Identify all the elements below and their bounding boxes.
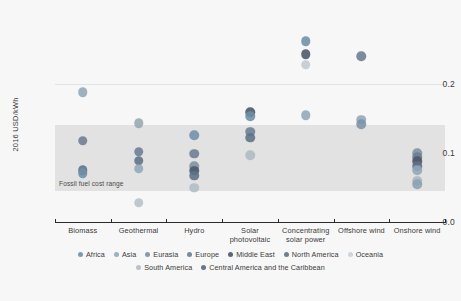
data-point	[301, 60, 311, 70]
y-axis-title: 2016 USD/kWh	[11, 80, 20, 170]
data-point	[245, 150, 255, 160]
legend-item[interactable]: Middle East	[228, 250, 275, 259]
legend-label: Central America and the Caribbean	[209, 263, 325, 272]
data-point	[190, 171, 200, 181]
x-tick	[111, 219, 112, 223]
legend-item[interactable]: Europe	[187, 250, 219, 259]
legend-label: Oceania	[356, 250, 383, 259]
legend-item[interactable]: Africa	[78, 250, 105, 259]
data-point	[78, 136, 88, 146]
category-label: Onshore wind	[382, 226, 452, 235]
data-point	[245, 133, 255, 143]
legend-label: Eurasia	[153, 250, 178, 259]
x-tick	[222, 219, 223, 223]
legend-label: Asia	[122, 250, 136, 259]
data-point	[78, 88, 88, 98]
legend-swatch-dot-icon	[284, 252, 289, 257]
legend-row-secondary: South AmericaCentral America and the Car…	[0, 261, 461, 274]
legend-row-primary: AfricaAsiaEurasiaEuropeMiddle EastNorth …	[0, 248, 461, 261]
data-point	[134, 198, 144, 208]
legend-swatch-dot-icon	[348, 252, 353, 257]
data-point	[301, 110, 311, 120]
x-axis-line	[55, 222, 445, 223]
legend-item[interactable]: Eurasia	[145, 250, 178, 259]
chart-figure: Fossil fuel cost range 0.00.10.2 2016 US…	[0, 0, 461, 301]
data-point	[301, 36, 311, 46]
legend-swatch-dot-icon	[201, 265, 206, 270]
legend-item[interactable]: Central America and the Caribbean	[201, 263, 325, 272]
data-point	[134, 119, 144, 129]
x-tick	[55, 219, 56, 223]
legend-label: Middle East	[236, 250, 275, 259]
x-tick	[278, 219, 279, 223]
data-point	[357, 119, 367, 129]
legend-swatch-dot-icon	[187, 252, 192, 257]
chart-legend: AfricaAsiaEurasiaEuropeMiddle EastNorth …	[0, 248, 461, 274]
data-point	[301, 50, 311, 60]
data-point	[190, 183, 200, 193]
legend-item[interactable]: South America	[136, 263, 192, 272]
data-point	[190, 149, 200, 159]
legend-label: South America	[144, 263, 192, 272]
legend-label: Europe	[195, 250, 219, 259]
data-point	[357, 52, 367, 62]
data-point	[78, 168, 88, 178]
y-tick-label: 0.1	[443, 148, 455, 158]
x-tick	[445, 219, 446, 223]
data-point	[190, 130, 200, 140]
fossil-fuel-cost-range-label: Fossil fuel cost range	[59, 180, 124, 187]
legend-item[interactable]: Oceania	[348, 250, 383, 259]
y-tick-label: 0.2	[443, 79, 455, 89]
legend-swatch-dot-icon	[228, 252, 233, 257]
data-point	[412, 179, 422, 189]
x-tick	[389, 219, 390, 223]
legend-swatch-dot-icon	[78, 252, 83, 257]
data-point	[412, 166, 422, 176]
legend-label: North America	[292, 250, 339, 259]
legend-item[interactable]: North America	[284, 250, 339, 259]
legend-swatch-dot-icon	[136, 265, 141, 270]
x-tick	[334, 219, 335, 223]
legend-label: Africa	[86, 250, 105, 259]
x-tick	[166, 219, 167, 223]
legend-swatch-dot-icon	[145, 252, 150, 257]
gridline	[55, 84, 445, 85]
legend-item[interactable]: Asia	[114, 250, 136, 259]
legend-swatch-dot-icon	[114, 252, 119, 257]
plot-area: Fossil fuel cost range 0.00.10.2 2016 US…	[0, 0, 461, 301]
data-point	[134, 164, 144, 174]
data-point	[245, 112, 255, 122]
